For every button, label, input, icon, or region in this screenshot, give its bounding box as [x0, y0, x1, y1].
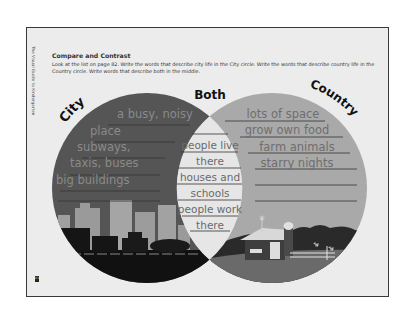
- both-entry[interactable]: there: [196, 155, 224, 167]
- country-entry[interactable]: farm animals: [259, 140, 334, 154]
- country-entry[interactable]: grow own food: [245, 123, 330, 137]
- country-entry[interactable]: starry nights: [261, 156, 334, 170]
- both-entry[interactable]: people work: [178, 203, 243, 215]
- both-entry[interactable]: people live: [181, 139, 238, 151]
- city-entry[interactable]: a busy, noisy: [117, 107, 193, 121]
- both-entry[interactable]: there: [196, 219, 224, 231]
- city-entry[interactable]: big buildings: [56, 173, 130, 187]
- venn-diagram: ✳ 🐄 🐄 City Both Country a busy, noisy pl…: [0, 0, 412, 320]
- both-entry[interactable]: houses and: [180, 171, 240, 183]
- svg-text:🐄: 🐄: [313, 241, 319, 247]
- city-entry[interactable]: taxis, buses: [70, 156, 139, 170]
- city-entry[interactable]: place: [90, 124, 121, 138]
- country-entry[interactable]: lots of space: [247, 107, 320, 121]
- both-entry[interactable]: schools: [190, 187, 229, 199]
- svg-text:🐄: 🐄: [328, 245, 334, 251]
- city-entry[interactable]: subways,: [77, 140, 131, 154]
- svg-text:✳: ✳: [259, 214, 266, 223]
- both-label: Both: [194, 88, 226, 102]
